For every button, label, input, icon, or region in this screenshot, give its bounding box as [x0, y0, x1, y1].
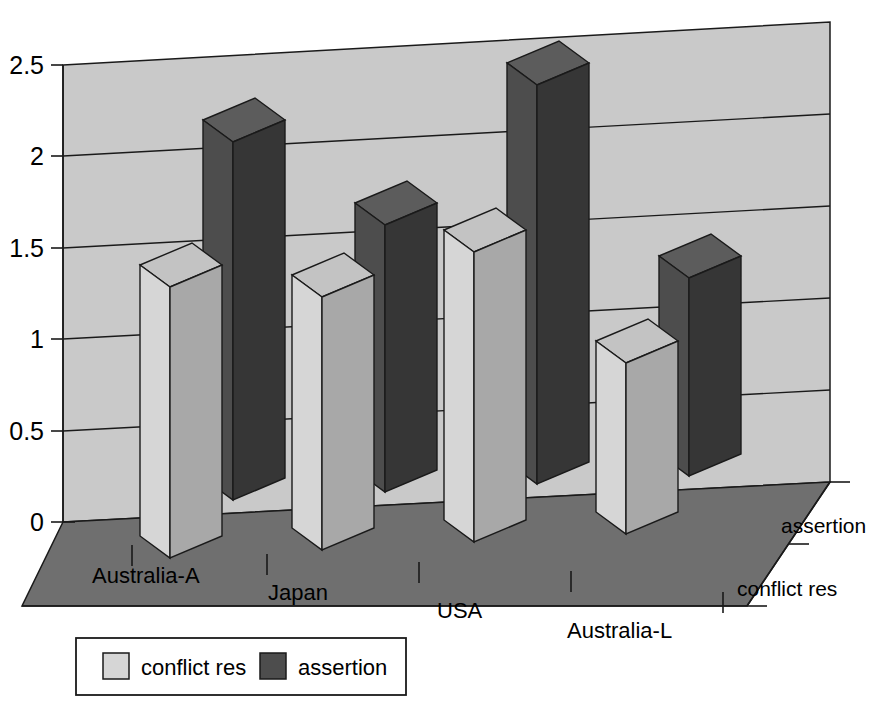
bar-front-face	[626, 341, 678, 534]
y-tick-label-1: 1	[30, 325, 44, 353]
bar-conflict-res-australia-a[interactable]	[140, 243, 222, 558]
bar-front-face	[537, 63, 589, 484]
x-axis-label-usa: USA	[437, 598, 483, 623]
y-tick-label-0: 0	[30, 508, 44, 536]
z-axis-label-conflict-res: conflict res	[737, 577, 837, 600]
bar-front-face	[474, 230, 526, 542]
dark-gray-swatch	[260, 653, 286, 679]
bar-conflict-res-japan[interactable]	[292, 253, 374, 550]
bar-chart-3d: 2.5 2 1.5 1 0.5 0	[0, 0, 886, 719]
bar-left-face	[444, 230, 474, 542]
x-axis-label-australia-l: Australia-L	[567, 618, 672, 643]
bar-front-face	[689, 256, 741, 476]
bar-front-face	[322, 275, 374, 550]
bar-left-face	[292, 275, 322, 550]
x-axis-label-japan: Japan	[268, 580, 328, 605]
y-tick-label-1_5: 1.5	[9, 234, 44, 262]
legend: conflict res assertion	[76, 638, 406, 695]
y-tick-label-2: 2	[30, 142, 44, 170]
legend-label-assertion: assertion	[298, 655, 387, 680]
legend-item-conflict-res[interactable]: conflict res	[103, 653, 246, 680]
y-tick-label-2_5: 2.5	[9, 51, 44, 79]
chart-container: 2.5 2 1.5 1 0.5 0	[0, 0, 886, 719]
light-gray-swatch	[103, 653, 129, 679]
bar-front-face	[233, 120, 285, 500]
legend-label-conflict-res: conflict res	[141, 655, 246, 680]
bar-conflict-res-usa[interactable]	[444, 208, 526, 542]
bar-left-face	[596, 341, 626, 534]
x-axis-label-australia-a: Australia-A	[92, 563, 200, 588]
z-axis-label-assertion: assertion	[781, 514, 866, 537]
bar-conflict-res-australia-l[interactable]	[596, 319, 678, 534]
legend-item-assertion[interactable]: assertion	[260, 653, 387, 680]
bar-front-face	[385, 203, 437, 492]
bar-front-face	[170, 265, 222, 558]
y-tick-label-0_5: 0.5	[9, 417, 44, 445]
bar-left-face	[140, 265, 170, 558]
